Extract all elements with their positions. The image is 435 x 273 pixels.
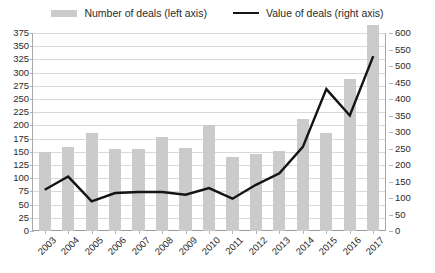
right-axis-tick xyxy=(389,165,393,166)
x-axis-tick-label: 2003 xyxy=(30,235,58,263)
left-axis-tick-label: 300 xyxy=(13,68,29,78)
x-axis-tick xyxy=(162,231,163,234)
right-axis-tick xyxy=(389,198,393,199)
right-axis-tick-label: 550 xyxy=(395,45,411,55)
x-axis-tick xyxy=(256,231,257,234)
x-axis-tick-label: 2015 xyxy=(311,235,339,263)
left-axis-tick-label: 100 xyxy=(13,173,29,183)
x-axis-tick-label: 2012 xyxy=(241,235,269,263)
right-axis-tick xyxy=(389,33,393,34)
left-axis-tick-label: 200 xyxy=(13,120,29,130)
left-axis-tick-label: 225 xyxy=(13,107,29,117)
left-axis: 0255075100125150175200225250275300325350… xyxy=(0,33,29,231)
right-axis-tick xyxy=(389,116,393,117)
x-axis-tick xyxy=(139,231,140,234)
x-axis-tick xyxy=(350,231,351,234)
right-axis-tick xyxy=(389,66,393,67)
left-axis-tick xyxy=(30,231,34,232)
right-axis-tick xyxy=(389,83,393,84)
x-axis-tick xyxy=(186,231,187,234)
left-axis-tick-label: 75 xyxy=(18,186,29,196)
legend-item-number-of-deals: Number of deals (left axis) xyxy=(51,8,207,19)
right-axis-tick-label: 450 xyxy=(395,78,411,88)
left-axis-tick-label: 50 xyxy=(18,200,29,210)
x-axis-tick-label: 2008 xyxy=(147,235,175,263)
chart-legend: Number of deals (left axis) Value of dea… xyxy=(0,5,435,21)
right-axis-tick-label: 350 xyxy=(395,111,411,121)
legend-item-value-of-deals: Value of deals (right axis) xyxy=(233,8,384,19)
x-axis-tick-label: 2016 xyxy=(335,235,363,263)
value-of-deals-line xyxy=(33,33,385,231)
right-axis-tick xyxy=(389,132,393,133)
legend-label-value-of-deals: Value of deals (right axis) xyxy=(266,8,384,19)
x-axis-tick-label: 2005 xyxy=(76,235,104,263)
x-axis-tick-label: 2017 xyxy=(358,235,386,263)
right-axis-line xyxy=(385,33,386,231)
line-series xyxy=(33,33,385,231)
right-axis-tick-label: 300 xyxy=(395,127,411,137)
x-axis-tick-label: 2013 xyxy=(264,235,292,263)
right-axis-tick-label: 250 xyxy=(395,144,411,154)
plot-area xyxy=(33,33,385,231)
right-axis-tick-label: 100 xyxy=(395,193,411,203)
left-axis-tick-label: 325 xyxy=(13,54,29,64)
right-axis-tick-label: 400 xyxy=(395,94,411,104)
right-axis: 050100150200250300350400450500550600 xyxy=(389,33,433,231)
right-axis-tick xyxy=(389,149,393,150)
right-axis-tick-label: 200 xyxy=(395,160,411,170)
chart-root: Number of deals (left axis) Value of dea… xyxy=(0,0,435,273)
left-axis-tick-label: 25 xyxy=(18,213,29,223)
x-axis-tick-label: 2006 xyxy=(100,235,128,263)
left-axis-tick-label: 375 xyxy=(13,28,29,38)
right-axis-tick-label: 600 xyxy=(395,28,411,38)
x-axis-tick xyxy=(232,231,233,234)
x-axis-tick xyxy=(303,231,304,234)
left-axis-tick-label: 175 xyxy=(13,134,29,144)
x-axis-tick xyxy=(45,231,46,234)
right-axis-tick-label: 0 xyxy=(395,226,400,236)
x-axis-tick xyxy=(209,231,210,234)
left-axis-tick-label: 150 xyxy=(13,147,29,157)
left-axis-tick-label: 125 xyxy=(13,160,29,170)
right-axis-tick xyxy=(389,215,393,216)
x-axis-tick xyxy=(68,231,69,234)
right-axis-tick xyxy=(389,50,393,51)
x-axis-tick xyxy=(326,231,327,234)
bar-series-swatch xyxy=(51,10,77,17)
x-axis-tick xyxy=(279,231,280,234)
left-axis-tick-label: 250 xyxy=(13,94,29,104)
x-axis-tick-label: 2004 xyxy=(53,235,81,263)
x-axis-tick-label: 2010 xyxy=(194,235,222,263)
x-axis-tick xyxy=(373,231,374,234)
right-axis-tick-label: 500 xyxy=(395,61,411,71)
x-axis: 2003200420052006200720082009201020112012… xyxy=(33,233,385,273)
x-axis-tick-label: 2009 xyxy=(170,235,198,263)
right-axis-tick-label: 150 xyxy=(395,177,411,187)
right-axis-tick xyxy=(389,99,393,100)
legend-label-number-of-deals: Number of deals (left axis) xyxy=(84,8,207,19)
x-axis-tick-label: 2014 xyxy=(288,235,316,263)
left-axis-tick-label: 275 xyxy=(13,81,29,91)
x-axis-tick-label: 2007 xyxy=(123,235,151,263)
x-axis-tick xyxy=(115,231,116,234)
line-path xyxy=(45,56,374,201)
left-axis-tick-label: 350 xyxy=(13,41,29,51)
right-axis-tick xyxy=(389,231,393,232)
x-axis-tick-label: 2011 xyxy=(217,235,245,263)
right-axis-tick-label: 50 xyxy=(395,210,406,220)
right-axis-tick xyxy=(389,182,393,183)
left-axis-tick-label: 0 xyxy=(24,226,29,236)
line-series-swatch xyxy=(233,12,259,14)
x-axis-tick xyxy=(92,231,93,234)
